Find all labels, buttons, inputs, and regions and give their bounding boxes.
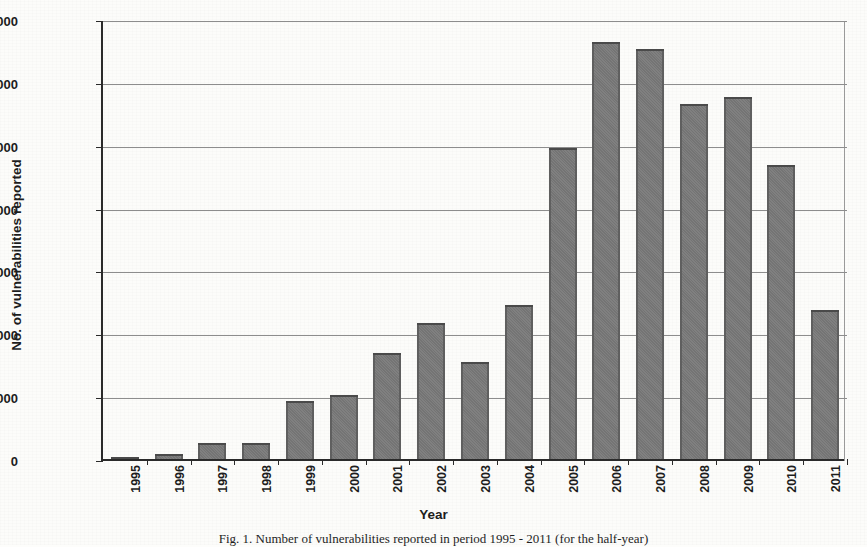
- bar-slot: [541, 19, 585, 459]
- x-axis-tick: [847, 459, 848, 465]
- bar-slot: [366, 19, 410, 459]
- x-axis-tick-label: 1998: [260, 465, 274, 493]
- bar: [767, 165, 795, 459]
- y-axis-tick: [96, 335, 103, 336]
- bar-slot: [147, 19, 191, 459]
- y-axis-tick-label: 3000: [0, 265, 18, 280]
- x-axis-tick-label: 1997: [216, 465, 230, 493]
- x-axis-tick-label: 2005: [567, 465, 581, 493]
- plot-area: [101, 21, 845, 461]
- bar: [155, 454, 183, 459]
- x-axis-tick-labels: 1995199619971998199920002001200220032004…: [101, 465, 845, 509]
- y-axis-tick: [96, 398, 103, 399]
- bar: [461, 362, 489, 459]
- bar-slot: [103, 19, 147, 459]
- bar-slot: [409, 19, 453, 459]
- y-axis-tick: [96, 461, 103, 462]
- x-axis-tick-label: 1996: [173, 465, 187, 493]
- x-axis-tick-label: 1995: [129, 465, 143, 493]
- bar-slot: [584, 19, 628, 459]
- y-axis-tick: [96, 147, 103, 148]
- bar-series: [103, 19, 847, 459]
- bar: [286, 401, 314, 459]
- bar: [549, 148, 577, 459]
- bar: [724, 97, 752, 459]
- bar-slot: [672, 19, 716, 459]
- y-axis-tick-label: 6000: [0, 76, 18, 91]
- bar: [417, 323, 445, 459]
- y-axis-tick-label: 0: [11, 454, 18, 469]
- bar: [373, 353, 401, 459]
- bar-slot: [716, 19, 760, 459]
- y-axis-tick-label: 2000: [0, 328, 18, 343]
- x-axis-tick-label: 2004: [523, 465, 537, 493]
- y-axis-tick: [96, 21, 103, 22]
- bar: [592, 42, 620, 459]
- x-axis-tick-label: 2003: [479, 465, 493, 493]
- bar-slot: [628, 19, 672, 459]
- y-axis-tick-label: 5000: [0, 139, 18, 154]
- bar-slot: [453, 19, 497, 459]
- bar: [198, 443, 226, 459]
- figure-caption: Fig. 1. Number of vulnerabilities report…: [0, 531, 867, 547]
- bar-slot: [759, 19, 803, 459]
- bar: [330, 395, 358, 459]
- bar: [680, 104, 708, 459]
- bar-slot: [191, 19, 235, 459]
- bar-slot: [278, 19, 322, 459]
- x-axis-tick-label: 2001: [391, 465, 405, 493]
- bar: [242, 443, 270, 459]
- y-axis-tick-label: 7000: [0, 14, 18, 29]
- bar: [811, 310, 839, 459]
- x-axis-tick-label: 2008: [698, 465, 712, 493]
- y-axis-tick: [96, 272, 103, 273]
- y-axis-tick: [96, 210, 103, 211]
- x-axis-tick-label: 2002: [435, 465, 449, 493]
- bar-slot: [322, 19, 366, 459]
- y-axis-tick-label: 4000: [0, 202, 18, 217]
- y-axis-tick-label: 1000: [0, 391, 18, 406]
- y-axis-tick: [96, 84, 103, 85]
- x-axis-tick-label: 2009: [742, 465, 756, 493]
- x-axis-tick-label: 2010: [785, 465, 799, 493]
- bar: [111, 457, 139, 459]
- x-axis-tick-label: 2000: [348, 465, 362, 493]
- bar: [636, 49, 664, 459]
- x-axis-tick-label: 1999: [304, 465, 318, 493]
- bar-slot: [234, 19, 278, 459]
- bar-slot: [497, 19, 541, 459]
- bar-slot: [803, 19, 847, 459]
- x-axis-tick-label: 2011: [829, 465, 843, 492]
- x-axis-tick-label: 2007: [654, 465, 668, 493]
- x-axis-tick-label: 2006: [610, 465, 624, 493]
- x-axis-title: Year: [0, 507, 867, 522]
- bar: [505, 305, 533, 459]
